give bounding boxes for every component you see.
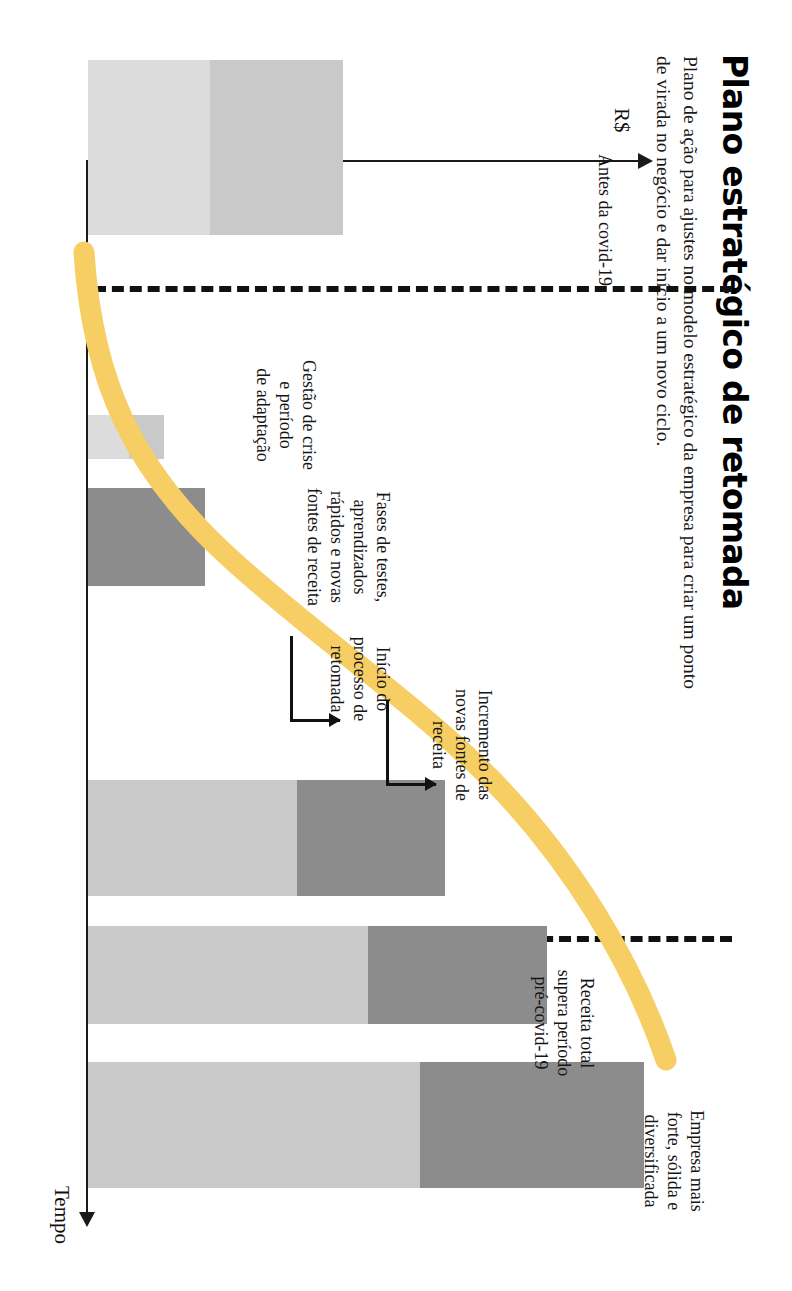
bar-group [88,926,547,1024]
bar-segment [88,1062,420,1188]
page-title: Plano estratégico de retomada [715,54,754,609]
bar-segment [88,926,369,1024]
value-axis-arrow-icon [638,153,653,169]
bar-segment [369,926,548,1024]
infographic-canvas: Plano estratégico de retomada Plano de a… [0,0,792,1291]
bar-segment [210,60,343,235]
pointer-arrow-recovery-start [290,636,340,722]
callout-pre-covid: Antes da covid-19 [593,120,616,320]
bar-segment [297,780,445,896]
bar-segment [88,780,297,896]
time-axis-label: Tempo [49,1186,74,1244]
pre-covid-divider [94,286,732,292]
page-subtitle: Plano de ação para ajustes no modelo est… [650,56,704,696]
callout-stronger-company: Empresa maisforte, sólida ediversificada [639,1068,708,1254]
bar-segment [129,415,165,459]
time-axis-line [86,160,88,1215]
time-axis-arrow-icon [79,1212,95,1227]
bar-group [88,488,205,586]
bar-segment [88,415,129,459]
bar-group [88,415,165,459]
bar-segment [88,488,205,586]
bar-group [88,780,445,896]
callout-revenue-exceeds: Receita totalsupera períodopré-covid-19 [529,930,598,1116]
bar-segment [88,60,210,235]
callout-new-sources: Incremento dasnovas fontes dereceita [427,652,496,838]
bar-group [88,60,343,235]
pointer-arrow-new-sources [386,700,436,786]
